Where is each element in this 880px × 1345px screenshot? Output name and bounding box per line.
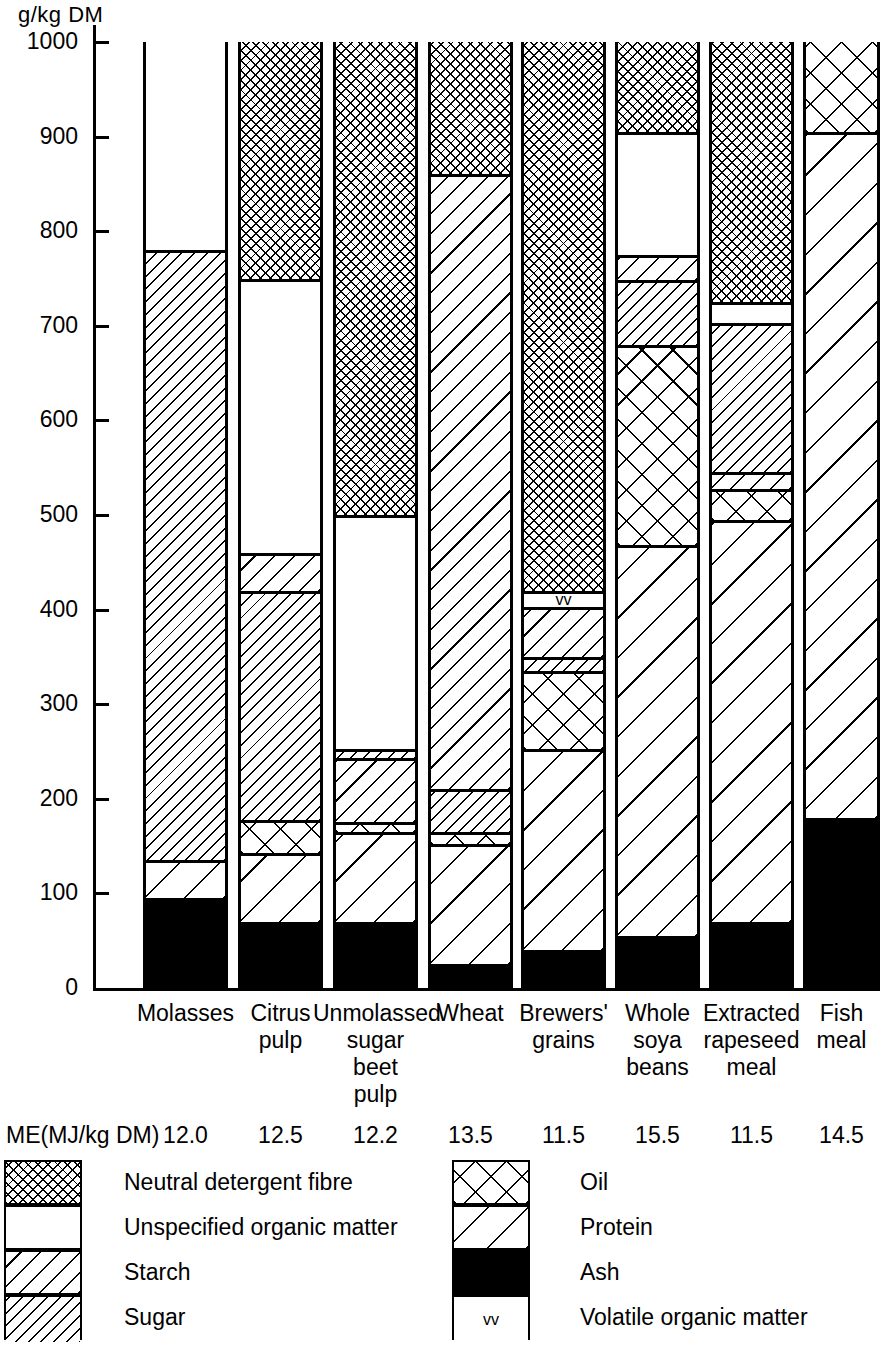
y-axis-tick — [93, 609, 109, 612]
segment-fill-protein — [241, 856, 320, 922]
bar-segment — [336, 832, 415, 922]
stacked-bar — [143, 42, 228, 988]
bar-segment — [431, 42, 510, 174]
me-row: ME(MJ/kg DM) 12.012.512.213.511.515.511.… — [0, 1122, 880, 1152]
y-axis-line — [93, 25, 96, 990]
segment-fill-white — [241, 282, 320, 553]
bar-segment — [431, 964, 510, 988]
bar-segment: vv — [524, 591, 603, 607]
bar-segment — [241, 820, 320, 853]
segment-fill-protein — [146, 863, 225, 898]
segment-fill-starch — [336, 761, 415, 822]
segment-fill-ndf — [241, 42, 320, 279]
legend-label: Protein — [580, 1205, 653, 1250]
segment-fill-oil — [431, 835, 510, 844]
y-axis-tick-label: 500 — [0, 503, 78, 526]
stacked-bar — [615, 42, 700, 988]
legend-swatch-stack: vv — [452, 1160, 530, 1340]
bar-segment — [431, 832, 510, 844]
bar-segment — [431, 174, 510, 789]
bar-segment — [618, 545, 697, 936]
bar-segment — [618, 936, 697, 988]
y-axis-tick-label: 900 — [0, 125, 78, 148]
bar-segment — [336, 749, 415, 758]
legend-swatch-starch — [6, 1252, 80, 1297]
segment-fill-starch — [524, 610, 603, 657]
bar-segment — [524, 607, 603, 657]
legend-label: Oil — [580, 1160, 608, 1205]
category-label: Fishmeal — [783, 1000, 880, 1054]
segment-fill-black — [241, 925, 320, 988]
stacked-bar — [803, 42, 880, 988]
y-axis-tick — [93, 892, 109, 895]
y-axis-tick-label: 800 — [0, 219, 78, 242]
y-axis-tick-label: 1000 — [0, 30, 78, 53]
bar-segment — [712, 922, 791, 988]
legend-label: Starch — [124, 1250, 190, 1295]
y-axis-tick — [93, 514, 109, 517]
y-axis-tick-label: 400 — [0, 598, 78, 621]
legend-label: Unspecified organic matter — [124, 1205, 398, 1250]
y-axis-unit-label: g/kg DM — [18, 2, 103, 28]
segment-fill-starch — [712, 475, 791, 488]
stacked-bar — [428, 42, 513, 988]
segment-fill-black — [431, 967, 510, 988]
y-axis-tick — [93, 703, 109, 706]
bar-segment — [712, 323, 791, 472]
stacked-bar: vv — [521, 42, 606, 988]
segment-fill-white — [146, 42, 225, 250]
legend-swatch-oil — [454, 1162, 528, 1207]
bar-segment — [524, 950, 603, 988]
segment-fill-ndf — [431, 42, 510, 174]
segment-fill-ndf — [336, 42, 415, 515]
bar-segment — [241, 553, 320, 591]
legend-label: Neutral detergent fibre — [124, 1160, 353, 1205]
bar-segment — [146, 250, 225, 860]
y-axis-tick — [93, 419, 109, 422]
bar-segment — [524, 749, 603, 950]
segment-fill-black — [524, 953, 603, 988]
segment-fill-sugar — [146, 253, 225, 860]
y-axis-tick-label: 100 — [0, 881, 78, 904]
legend-swatch-white — [6, 1207, 80, 1252]
bar-segment — [146, 42, 225, 250]
segment-fill-starch — [241, 556, 320, 591]
legend-swatch-stack — [4, 1160, 82, 1340]
y-axis-tick-label: 200 — [0, 787, 78, 810]
bar-segment — [524, 657, 603, 671]
segment-fill-sugar — [431, 792, 510, 832]
segment-fill-protein — [806, 135, 877, 818]
bar-segment — [618, 280, 697, 344]
segment-fill-oil — [618, 348, 697, 546]
segment-fill-starch — [431, 177, 510, 789]
segment-fill-black — [146, 901, 225, 988]
legend-swatch-vom: vv — [454, 1297, 528, 1342]
segment-fill-protein — [618, 548, 697, 936]
segment-fill-black — [712, 925, 791, 988]
segment-fill-sugar — [712, 326, 791, 472]
bar-segment — [712, 489, 791, 520]
legend-label: Ash — [580, 1250, 620, 1295]
bar-segment — [241, 591, 320, 820]
segment-fill-protein — [336, 835, 415, 922]
bar-segment — [524, 671, 603, 749]
legend-swatch-sugar — [6, 1297, 80, 1342]
y-axis-tick — [93, 325, 109, 328]
segment-fill-black — [806, 821, 877, 988]
bar-segment — [336, 42, 415, 515]
bar-segment — [618, 132, 697, 255]
bar-segment — [618, 42, 697, 132]
category-label-line: sugar — [313, 1027, 438, 1054]
me-value: 14.5 — [783, 1122, 880, 1149]
segment-fill-oil — [524, 674, 603, 749]
bar-segment — [524, 42, 603, 591]
category-label-line: pulp — [313, 1081, 438, 1108]
bar-segment — [146, 898, 225, 988]
legend-swatch-black — [454, 1252, 528, 1297]
category-label-line: Fish — [783, 1000, 880, 1027]
bar-segment — [806, 132, 877, 818]
segment-fill-sugar — [618, 283, 697, 344]
y-axis-tick-label: 600 — [0, 408, 78, 431]
bar-segment — [806, 42, 877, 132]
bar-segment — [618, 255, 697, 281]
